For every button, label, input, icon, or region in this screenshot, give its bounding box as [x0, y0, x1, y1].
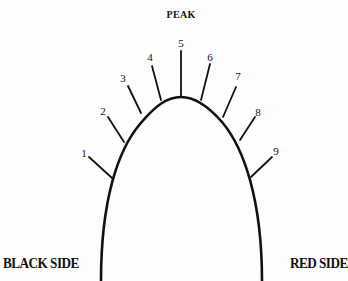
tick-label-3: 3 — [120, 72, 126, 84]
tick-label-9: 9 — [273, 145, 279, 157]
tick-label-5: 5 — [178, 37, 184, 49]
tick-3 — [128, 86, 141, 113]
tick-label-7: 7 — [235, 70, 241, 82]
tick-7 — [223, 87, 236, 117]
tick-4 — [152, 66, 161, 100]
tick-8 — [240, 117, 255, 140]
tick-label-6: 6 — [207, 51, 213, 63]
tick-label-1: 1 — [81, 147, 87, 159]
peak-curve — [101, 97, 262, 281]
tick-2 — [108, 117, 124, 142]
tick-label-2: 2 — [100, 105, 106, 117]
red-side-label: RED SIDE — [290, 255, 348, 272]
black-side-label: BLACK SIDE — [3, 255, 79, 272]
tick-label-8: 8 — [255, 106, 261, 118]
tick-1 — [89, 157, 112, 178]
peak-title: PEAK — [167, 9, 196, 20]
tick-label-4: 4 — [147, 51, 153, 63]
tick-6 — [201, 64, 210, 100]
tick-marks — [89, 51, 272, 178]
tick-9 — [251, 157, 272, 177]
